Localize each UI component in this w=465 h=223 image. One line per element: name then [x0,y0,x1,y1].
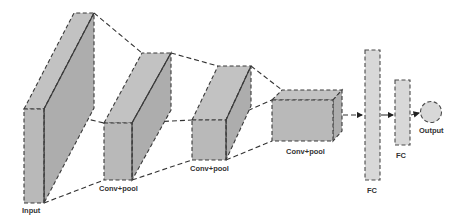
label-fc-2: FC [396,151,406,160]
label-output: Output [419,126,444,135]
fc-layer-1 [365,50,380,180]
input-block [24,13,94,203]
cnn-diagram [0,0,465,223]
label-conv-pool-1: Conv+pool [99,184,138,193]
conv-pool-block-3 [272,90,342,141]
label-conv-pool-2: Conv+pool [190,164,229,173]
label-conv-pool-3: Conv+pool [286,147,325,156]
conv-pool-block-1 [104,53,171,180]
conv-pool-block-2 [192,66,251,160]
fc-layer-2 [395,80,410,145]
arrow-fc2-to-output [411,113,419,115]
output-node [421,102,442,123]
label-fc-1: FC [367,186,377,195]
label-input: Input [22,206,40,215]
